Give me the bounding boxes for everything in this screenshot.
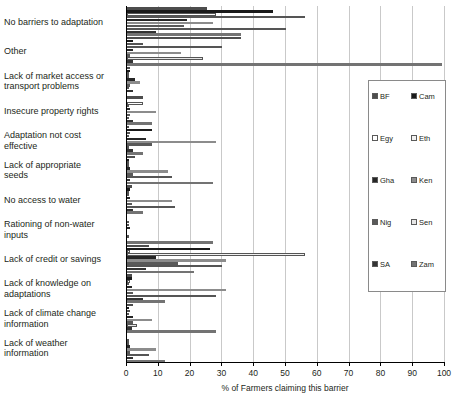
bar [127,289,226,291]
x-tick-label: 20 [185,368,194,378]
legend-item-gha: Gha [369,176,408,185]
legend-label: Nig [380,218,391,227]
bar [127,129,152,131]
category-label: No barriers to adaptation [4,17,122,28]
legend-swatch-icon [372,135,378,141]
x-tick [412,362,413,366]
legend-swatch-icon [372,93,378,99]
bar [127,111,156,113]
bar [127,330,216,332]
category-label: Lack of appropriate seeds [4,160,122,181]
legend-swatch-icon [411,261,417,267]
bar [127,46,222,48]
x-tick-label: 50 [280,368,289,378]
bar [127,52,181,54]
bar [127,152,143,154]
bar [127,241,213,243]
bar [127,271,194,273]
legend-swatch-icon [411,177,417,183]
bar [127,348,156,350]
bar [127,227,130,229]
category-label: Lack of knowledge on adaptations [4,278,122,299]
legend-item-sen: Sen [408,218,447,227]
legend-item-egy: Egy [369,134,408,143]
legend-label: SA [380,260,390,269]
x-tick [380,362,381,366]
legend-item-nig: Nig [369,218,408,227]
x-tick-label: 90 [407,368,416,378]
legend-row: SAZam [369,259,447,269]
legend-label: Eth [419,134,430,143]
legend-label: Egy [380,134,393,143]
gridline [349,6,350,362]
x-tick-label: 30 [217,368,226,378]
x-tick-label: 0 [124,368,129,378]
bar [127,200,172,202]
legend-item-zam: Zam [408,260,447,269]
legend-swatch-icon [411,93,417,99]
category-label: Lack of credit or savings [4,254,122,265]
bar [127,248,210,250]
legend-label: BF [380,92,390,101]
bar [127,235,129,237]
gridline [221,6,222,362]
category-label: Lack of market access or transport probl… [4,71,122,92]
bar [127,102,143,104]
category-label: Other [4,46,122,57]
bar [127,182,213,184]
x-tick-label: 100 [437,368,451,378]
bar [127,37,241,39]
x-axis-title: % of Farmers claiming this barrier [126,383,444,393]
bar [127,143,152,145]
legend-swatch-icon [372,219,378,225]
x-tick-label: 10 [153,368,162,378]
x-tick [317,362,318,366]
category-label: Rationing of non-water inputs [4,219,122,240]
bar [127,211,143,213]
bar [127,96,143,98]
legend-row: EgyEth [369,133,447,143]
legend-item-bf: BF [369,92,408,101]
category-label: Adaptation not cost effective [4,130,122,151]
legend-label: Cam [419,92,435,101]
bar [127,122,152,124]
legend-label: Gha [380,176,394,185]
legend-item-ken: Ken [408,176,447,185]
x-tick [158,362,159,366]
legend-swatch-icon [411,135,417,141]
legend: BFCamEgyEthGhaKenNigSenSAZam [368,80,446,292]
x-tick-label: 70 [344,368,353,378]
bar [127,360,165,362]
legend-label: Sen [419,218,432,227]
category-label: Lack of weather information [4,338,122,359]
x-tick [349,362,350,366]
x-tick [221,362,222,366]
legend-item-sa: SA [369,260,408,269]
gridline [253,6,254,362]
bar [127,90,133,92]
gridline [285,6,286,362]
x-tick-label: 80 [376,368,385,378]
bar [127,63,442,65]
category-label: Lack of climate change information [4,308,122,329]
x-tick [444,362,445,366]
x-tick [285,362,286,366]
legend-swatch-icon [372,261,378,267]
legend-row: BFCam [369,91,447,101]
bar [127,33,241,35]
x-tick [253,362,254,366]
x-tick-label: 40 [248,368,257,378]
x-tick [190,362,191,366]
x-tick-label: 60 [312,368,321,378]
legend-swatch-icon [372,177,378,183]
legend-swatch-icon [411,219,417,225]
legend-item-eth: Eth [408,134,447,143]
bar [127,300,165,302]
x-tick [126,362,127,366]
bar [127,206,175,208]
bar-chart: 0102030405060708090100 No barriers to ad… [0,0,452,410]
legend-label: Zam [419,260,434,269]
bar [127,176,172,178]
legend-label: Ken [419,176,432,185]
category-label: No access to water [4,195,122,206]
